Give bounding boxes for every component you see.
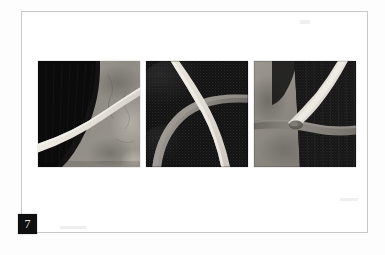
figure-panel-3[interactable] [254,61,356,167]
panel-2-artwork [146,61,248,167]
figure-panel-1[interactable] [38,61,140,167]
figure-panel-2[interactable] [146,61,248,167]
page-canvas: 7 [0,0,385,255]
panel-1-artwork [38,61,140,167]
figure-number-chip: 7 [18,214,37,234]
panel-3-artwork [254,61,356,167]
panel-row [38,61,356,168]
plate-frame [21,11,368,233]
